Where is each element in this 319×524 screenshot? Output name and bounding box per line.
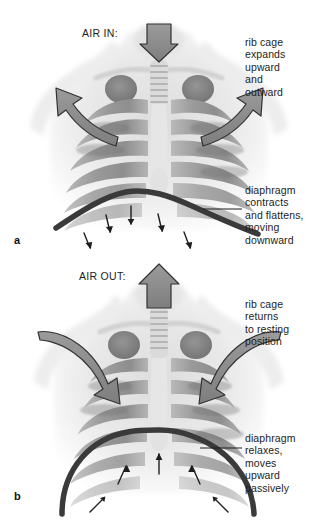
- trachea: [150, 306, 168, 358]
- panel-inhalation: AIR IN: rib cage expands upward and outw…: [0, 0, 319, 262]
- panel-letter-b: b: [14, 490, 21, 502]
- panel-letter-a: a: [14, 234, 20, 246]
- breathing-mechanics-figure: AIR IN: rib cage expands upward and outw…: [0, 0, 319, 524]
- callout-ribcage-exhalation: rib cage returns to resting position: [245, 298, 289, 348]
- callout-diaphragm-exhalation: diaphragm relaxes, moves upward passivel…: [245, 432, 296, 494]
- callout-ribcage-inhalation: rib cage expands upward and outward: [245, 36, 285, 98]
- sternum: [150, 104, 168, 196]
- panel-exhalation: AIR OUT: rib cage returns to resting pos…: [0, 262, 319, 524]
- air-out-label: AIR OUT:: [79, 271, 126, 282]
- callout-diaphragm-inhalation: diaphragm contracts and flattens, moving…: [245, 184, 304, 246]
- air-in-label: AIR IN:: [82, 28, 118, 39]
- trachea: [150, 60, 168, 108]
- sternum: [150, 358, 168, 451]
